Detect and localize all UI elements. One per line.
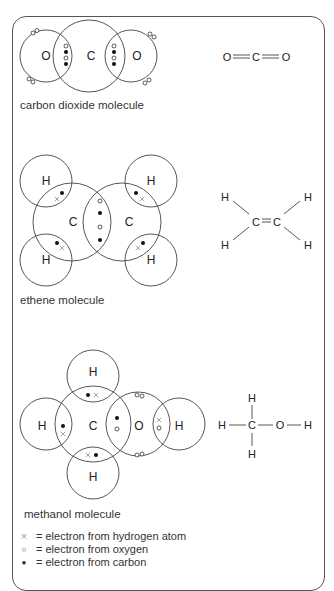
ethene-atom-h: H <box>42 253 51 267</box>
legend-item-carbon: ● = electron from carbon <box>18 556 146 568</box>
methanol-atom-o: O <box>134 419 143 433</box>
legend-label: = electron from carbon <box>36 556 146 568</box>
svg-text:O: O <box>223 51 232 63</box>
ethene-atom-h: H <box>147 174 156 188</box>
svg-text:H: H <box>248 392 256 404</box>
co2-caption: carbon dioxide molecule <box>20 99 144 111</box>
svg-text:H: H <box>221 191 229 203</box>
svg-text:O: O <box>282 51 291 63</box>
co2-atom-labels: O C O <box>41 49 141 63</box>
svg-text:H: H <box>248 448 256 460</box>
ethene-atom-h: H <box>147 253 156 267</box>
co2-atom-c: C <box>87 49 96 63</box>
co2-atom-o-left: O <box>41 49 50 63</box>
open-circle-icon: ○ <box>18 545 30 554</box>
filled-dot-icon: ● <box>18 558 30 567</box>
legend-label: = electron from hydrogen atom <box>36 530 186 542</box>
svg-text:C: C <box>252 216 260 228</box>
methanol-atom-h: H <box>175 419 184 433</box>
methanol-atom-h: H <box>89 470 98 484</box>
svg-text:C: C <box>273 216 281 228</box>
svg-text:C: C <box>252 51 260 63</box>
methanol-atom-h: H <box>38 419 47 433</box>
co2-atom-o-right: O <box>132 49 141 63</box>
ethene-caption: ethene molecule <box>20 294 104 306</box>
ethene-atom-c: C <box>69 215 78 229</box>
svg-text:H: H <box>304 191 312 203</box>
svg-text:H: H <box>304 419 312 431</box>
ethene-atom-h: H <box>42 174 51 188</box>
methanol-caption: methanol molecule <box>24 508 121 520</box>
svg-text:H: H <box>218 419 226 431</box>
methanol-electrons <box>61 393 161 457</box>
legend-item-hydrogen: × = electron from hydrogen atom <box>18 530 186 542</box>
ethene-atom-c: C <box>125 215 134 229</box>
svg-text:H: H <box>304 239 312 251</box>
ethene-structural-formula: H H C C H H <box>221 191 312 251</box>
cross-icon: × <box>18 530 30 542</box>
methanol-atom-c: C <box>89 419 98 433</box>
svg-text:O: O <box>276 419 285 431</box>
legend-item-oxygen: ○ = electron from oxygen <box>18 543 148 555</box>
co2-structural-formula: O C O <box>223 51 291 63</box>
methanol-atom-h: H <box>89 365 98 379</box>
methanol-structural-formula: H H C O H H <box>218 392 312 460</box>
svg-text:H: H <box>221 239 229 251</box>
legend-label: = electron from oxygen <box>36 543 148 555</box>
methanol-atom-labels: H H C O H H <box>38 365 184 484</box>
svg-text:C: C <box>248 419 256 431</box>
